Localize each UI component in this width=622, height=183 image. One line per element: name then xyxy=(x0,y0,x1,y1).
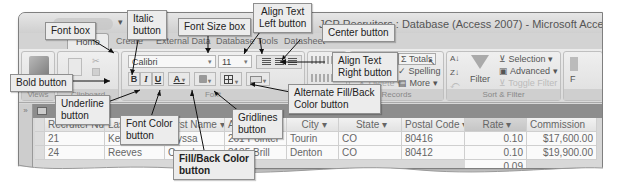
ribbon-tabs: Home Create External Data Database Tools… xyxy=(19,33,602,49)
find-icon[interactable] xyxy=(570,57,578,71)
cell[interactable]: $17,600.00 xyxy=(527,132,597,146)
callout-bold-button: Bold button xyxy=(10,74,73,92)
cell[interactable]: 21 xyxy=(45,132,105,146)
fill-back-color-button[interactable]: ▾ xyxy=(194,72,216,86)
paint-bucket-icon xyxy=(199,75,207,83)
font-group-label: Font xyxy=(122,89,304,100)
font-color-button[interactable]: A ▾ xyxy=(168,72,190,86)
callout-underline-button: Underline button xyxy=(55,95,110,125)
find-button[interactable]: F xyxy=(570,74,576,84)
cell[interactable]: Tourin xyxy=(287,132,339,146)
cell[interactable]: 0.10 xyxy=(465,132,527,146)
chevron-down-icon[interactable]: ▾ xyxy=(220,119,225,130)
cell[interactable]: CO xyxy=(339,146,402,160)
cell[interactable]: 80412 xyxy=(402,146,465,160)
cell[interactable]: Denton xyxy=(287,146,339,160)
font-group: Calibri ▾ 11 ▾ B I U A ▾ ▾ ▾ ▾ Font ⧉ xyxy=(121,51,305,101)
callout-font-size-box: Font Size box xyxy=(178,18,251,36)
advanced-button[interactable]: ▣ Advanced ▾ xyxy=(499,66,558,76)
font-size-box[interactable]: 11 ▾ xyxy=(218,55,252,68)
column-header-commission[interactable]: Commission xyxy=(527,118,597,132)
row-selector[interactable] xyxy=(35,132,45,146)
cell[interactable]: Reeves xyxy=(105,146,165,160)
gridlines-icon xyxy=(224,75,233,84)
cell[interactable]: CO xyxy=(339,132,402,146)
cell[interactable]: 24 xyxy=(45,146,105,160)
chevron-down-icon: ▾ xyxy=(233,79,238,85)
alternate-fill-icon xyxy=(250,76,262,83)
qat-customize-icon[interactable]: ▾ xyxy=(118,17,123,27)
sort-descending-icon[interactable]: Z↓ xyxy=(450,68,459,77)
spelling-button[interactable]: ✓ Spelling xyxy=(398,66,441,76)
chevron-down-icon[interactable]: ▾ xyxy=(208,56,212,68)
view-icon[interactable] xyxy=(29,56,49,76)
more-icon: ▤ xyxy=(398,78,410,88)
find-group-label xyxy=(564,89,602,100)
tab-datasheet[interactable]: Datasheet xyxy=(284,36,325,46)
column-label: Postal Code xyxy=(405,119,459,130)
selection-button[interactable]: ⊻ Selection ▾ xyxy=(499,54,553,64)
more-button[interactable]: ▤ More ▾ xyxy=(398,78,438,88)
tab-database-tools[interactable]: Database Tools xyxy=(216,36,278,46)
table-icon[interactable] xyxy=(37,107,47,115)
callout-align-text-left-button: Align Text Left button xyxy=(253,3,312,33)
column-label: Rate xyxy=(483,119,504,130)
alternate-fill-back-color-button[interactable]: ▾ xyxy=(246,72,270,86)
sort-ascending-icon[interactable]: A↓ xyxy=(450,54,459,63)
select-all-cell[interactable] xyxy=(35,118,45,132)
chevron-down-icon[interactable]: ▾ xyxy=(322,119,327,130)
callout-font-box: Font box xyxy=(45,22,96,40)
cut-icon[interactable]: ✂ xyxy=(92,56,100,64)
advanced-label: Advanced xyxy=(510,66,550,76)
align-center-icon[interactable] xyxy=(275,58,284,66)
column-header-rate[interactable]: Rate ▾ xyxy=(465,118,527,132)
sigma-icon: Σ xyxy=(401,54,409,64)
callout-font-color-button: Font Color button xyxy=(120,115,179,145)
cell[interactable]: 0.10 xyxy=(465,146,527,160)
row-selector[interactable] xyxy=(35,146,45,160)
align-right-icon[interactable] xyxy=(288,58,297,66)
toggle-filter-button[interactable]: ⊻ Toggle Filter xyxy=(499,78,557,88)
toggle-filter-label: Toggle Filter xyxy=(508,78,557,88)
copy-icon[interactable] xyxy=(92,68,100,76)
find-group: F xyxy=(563,51,603,101)
torn-edge xyxy=(0,164,622,183)
sort-filter-group-label: Sort & Filter xyxy=(447,89,560,100)
spelling-icon: ✓ xyxy=(398,66,409,76)
callout-alternate-fill-back-color-button: Alternate Fill/Back Color button xyxy=(288,84,381,114)
selection-label: Selection xyxy=(509,54,546,64)
underline-button[interactable]: U xyxy=(152,72,164,86)
right-edge-mask xyxy=(603,0,622,183)
font-name-value: Calibri xyxy=(132,57,158,67)
column-label: Commission xyxy=(530,119,585,130)
column-header-city[interactable]: City ▾ xyxy=(287,118,339,132)
gridlines-button[interactable]: ▾ xyxy=(220,72,242,86)
align-left-icon[interactable] xyxy=(262,58,271,66)
chevron-down-icon[interactable]: ▾ xyxy=(382,119,387,130)
filter-button[interactable]: Filter xyxy=(470,74,490,84)
chevron-down-icon: ▾ xyxy=(180,77,185,83)
chevron-down-icon[interactable]: ▾ xyxy=(506,119,511,130)
chevron-down-icon: ▾ xyxy=(207,78,212,84)
more-label: More xyxy=(410,78,431,88)
advanced-icon: ▣ xyxy=(499,66,510,76)
chevron-down-icon[interactable]: ▾ xyxy=(244,56,248,68)
callout-gridlines-button: Gridlines button xyxy=(232,109,283,139)
filter-icon[interactable] xyxy=(471,55,489,69)
toggle-filter-icon: ⊻ xyxy=(499,78,508,88)
callout-fill-back-color-button: Fill/Back Color button xyxy=(173,150,255,180)
alignment-buttons xyxy=(256,55,302,69)
list-icons[interactable] xyxy=(311,74,333,82)
cell[interactable]: 80416 xyxy=(402,132,465,146)
callout-align-text-right-button: Align Text Right button xyxy=(332,52,398,82)
navigation-pane-toggle[interactable]: » xyxy=(19,104,33,168)
column-header-state[interactable]: State ▾ xyxy=(339,118,402,132)
italic-button[interactable]: I xyxy=(140,72,152,86)
column-header-postal-code[interactable]: Postal Code ▾ xyxy=(402,118,465,132)
mouse-pointer-icon: ↖ xyxy=(428,57,436,67)
font-box[interactable]: Calibri ▾ xyxy=(128,55,216,68)
selection-icon: ⊻ xyxy=(499,54,509,64)
sort-filter-group: A↓ Z↓ ⤺ Filter ⊻ Selection ▾ ▣ Advanced … xyxy=(446,51,561,101)
bold-button[interactable]: B xyxy=(128,72,140,86)
cell[interactable]: $19,900.00 xyxy=(527,146,597,160)
